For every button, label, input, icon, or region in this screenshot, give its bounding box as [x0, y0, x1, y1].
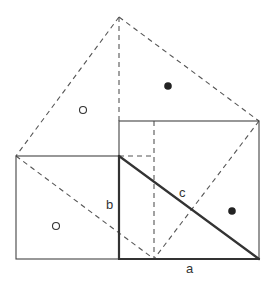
- label-c: c: [179, 185, 186, 200]
- dashed-edge-right: [119, 17, 259, 121]
- filled-circle-marker-top: [164, 82, 172, 90]
- square-a: [119, 121, 259, 259]
- open-circle-marker-bottom: [53, 223, 60, 230]
- triangle-hypotenuse-c: [119, 156, 259, 259]
- right-triangle: [119, 156, 259, 259]
- filled-circle-marker-bottom: [228, 207, 236, 215]
- square-b: [16, 156, 119, 259]
- open-circle-marker-top: [80, 107, 87, 114]
- dashed-edge-bottom-right: [154, 121, 259, 259]
- dashed-edge-left: [16, 17, 119, 156]
- hypotenuse-square-dashed: [16, 17, 259, 259]
- dashed-edge-bottom-left: [16, 156, 154, 259]
- pythagorean-diagram: b c a: [0, 0, 273, 281]
- label-a: a: [186, 261, 194, 276]
- label-b: b: [106, 197, 113, 212]
